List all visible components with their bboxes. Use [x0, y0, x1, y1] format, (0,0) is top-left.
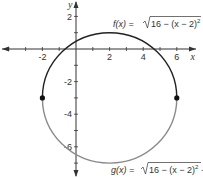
x-axis-label: x: [190, 51, 196, 62]
x-axis: [2, 47, 196, 52]
f-upper-semicircle: [42, 33, 176, 98]
y-axis: [74, 1, 79, 177]
y-tick-label: -2: [64, 77, 72, 87]
y-axis-up-arrow-icon: [74, 1, 79, 8]
endpoint-left: [40, 95, 45, 100]
svg-text:f(x) =: f(x) =: [113, 19, 134, 29]
g-suffix: − 3: [198, 165, 203, 175]
g-radicand: 16 − (x − 2): [149, 165, 195, 175]
f-prefix: f(x) =: [113, 19, 134, 29]
y-tick-label: -4: [64, 109, 72, 119]
x-axis-left-arrow-icon: [2, 47, 9, 52]
g-lower-semicircle: [42, 98, 176, 163]
endpoint-right: [174, 95, 179, 100]
y-axis-down-arrow-icon: [74, 170, 79, 177]
f-equation-label: f(x) = 16 − (x − 2)2 − 3: [113, 17, 203, 30]
x-tick-label: -2: [38, 52, 46, 62]
function-graph: -2 2 4 6 2 -2 -4 -6 y x f(x) = 16 − (x −…: [0, 0, 203, 178]
x-tick-label: 6: [174, 52, 179, 62]
x-tick-label: 2: [107, 52, 112, 62]
g-equation-label: g(x) = 16 − (x − 2)2 − 3: [111, 163, 203, 176]
svg-text:g(x) =: g(x) =: [111, 165, 134, 175]
svg-text:16 − (x − 2)2 − 3: 16 − (x − 2)2 − 3: [149, 164, 203, 175]
y-axis-label: y: [67, 0, 73, 10]
f-suffix: − 3: [200, 19, 203, 29]
svg-text:16 − (x − 2)2 − 3: 16 − (x − 2)2 − 3: [151, 18, 203, 29]
x-tick-label: 4: [141, 52, 146, 62]
y-tick-label: 2: [67, 12, 72, 22]
g-prefix: g(x) =: [111, 165, 134, 175]
f-radicand: 16 − (x − 2): [151, 19, 197, 29]
